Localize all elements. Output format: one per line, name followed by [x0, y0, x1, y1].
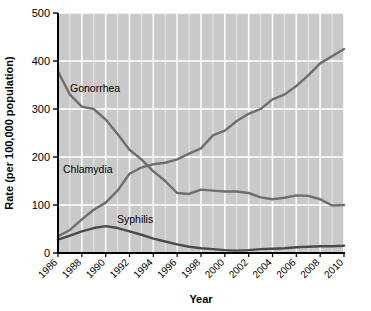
- x-tick-label: 1986: [36, 256, 60, 280]
- x-tick-label: 2002: [227, 256, 251, 280]
- x-tick-label: 2010: [322, 256, 346, 280]
- syphilis-series-label: Syphilis: [117, 213, 153, 225]
- chlamydia-series-label: Chlamydia: [63, 163, 113, 175]
- y-axis-ticks: 0100200300400500: [32, 7, 58, 259]
- x-tick-label: 1998: [179, 256, 203, 280]
- x-tick-label: 1992: [107, 256, 131, 280]
- y-tick-label: 300: [32, 103, 50, 115]
- chart-container: 0100200300400500 19861988199019921994199…: [0, 0, 371, 311]
- x-axis-ticks: 1986198819901992199419961998200020022004…: [36, 253, 346, 280]
- x-axis-title: Year: [189, 293, 213, 305]
- x-tick-label: 1990: [84, 256, 108, 280]
- y-tick-label: 500: [32, 7, 50, 19]
- x-tick-label: 2006: [274, 256, 298, 280]
- y-tick-label: 0: [44, 247, 50, 259]
- gonorrhea-series-label: Gonorrhea: [70, 82, 120, 94]
- x-tick-label: 2008: [298, 256, 322, 280]
- x-tick-label: 2004: [250, 256, 274, 280]
- x-tick-label: 1996: [155, 256, 179, 280]
- y-tick-label: 200: [32, 151, 50, 163]
- y-axis-title: Rate (per 100,000 population): [3, 56, 15, 210]
- x-tick-label: 1988: [60, 256, 84, 280]
- x-tick-label: 2000: [203, 256, 227, 280]
- x-tick-label: 1994: [131, 256, 155, 280]
- sti-rate-line-chart: 0100200300400500 19861988199019921994199…: [0, 0, 371, 311]
- y-tick-label: 400: [32, 55, 50, 67]
- y-tick-label: 100: [32, 199, 50, 211]
